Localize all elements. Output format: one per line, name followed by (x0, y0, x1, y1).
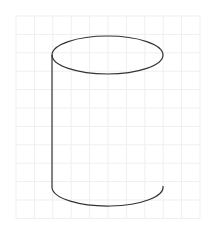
drawing-canvas (0, 0, 211, 238)
background-grid (16, 16, 200, 218)
